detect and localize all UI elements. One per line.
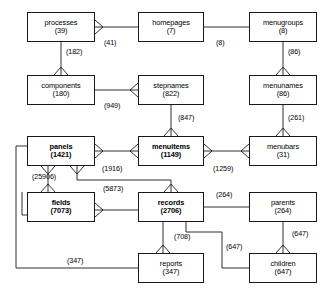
entity-homepages[interactable]: homepages (7) [138,12,204,42]
entity-count: (822) [163,90,180,98]
edge-label-parents-children: (647) [292,229,308,238]
entity-menuitems[interactable]: menuitems (1149) [138,136,204,166]
edge-label-records-parents: (264) [216,190,232,199]
edge-label-homepages-menugroups: (8) [216,38,224,47]
entity-count: (39) [55,27,68,35]
entity-menugroups[interactable]: menugroups (8) [249,12,317,42]
edge-label-panels-menuitems: (1916) [102,164,122,173]
edge-label-processes-homepages: (41) [104,38,116,47]
entity-children[interactable]: children (647) [249,253,317,283]
entity-reports[interactable]: reports (347) [138,253,204,283]
entity-count: (2706) [161,207,182,215]
entity-count: (86) [277,90,290,98]
edge-components-stepnames [95,83,138,97]
er-diagram-canvas: processes (39) homepages (7) menugroups … [0,0,331,299]
entity-count: (347) [163,268,180,276]
edge-label-menuitems-menubars: (1259) [213,164,233,173]
entity-count: (7) [167,27,176,35]
edge-label-components-stepnames: (949) [104,101,120,110]
edge-stepnames-menuitems [164,105,178,136]
entity-count: (647) [275,268,292,276]
entity-count: (1421) [51,151,72,159]
entity-menunames[interactable]: menunames (86) [249,75,317,105]
edge-panels-menuitems [95,144,138,158]
entity-count: (31) [277,151,290,159]
edge-menuitems-menubars [204,144,249,158]
entity-components[interactable]: components (180) [27,75,95,105]
entity-count: (7073) [51,207,72,215]
entity-count: (8) [279,27,288,35]
edge-records-reports [156,222,170,253]
entity-count: (180) [53,90,70,98]
entity-records[interactable]: records (2706) [138,192,204,222]
edge-label-panels-fields: (25906) [32,172,56,181]
entity-count: (1149) [161,151,181,159]
edge-label-stepnames-menuitems: (847) [178,113,194,122]
edge-label-records-children: (647) [226,242,242,251]
entity-parents[interactable]: parents (264) [249,192,317,222]
edge-label-panels-records: (5873) [103,184,123,193]
edge-processes-homepages [95,20,138,34]
entity-stepnames[interactable]: stepnames (822) [138,75,204,105]
edge-fields-records [95,203,138,217]
entity-panels[interactable]: panels (1421) [27,136,95,166]
entity-count: (264) [275,207,292,215]
edge-parents-children [276,222,290,253]
edge-label-menugroups-menunames: (86) [288,47,300,56]
entity-fields[interactable]: fields (7073) [27,192,95,222]
edge-label-menunames-menubars: (261) [288,113,304,122]
edge-panels-records [70,166,178,192]
edge-label-records-reports: (708) [174,232,190,241]
edge-label-fields-reports: (347) [67,256,83,265]
edge-label-processes-components: (182) [66,47,82,56]
entity-processes[interactable]: processes (39) [27,12,95,42]
entity-menubars[interactable]: menubars (31) [249,136,317,166]
